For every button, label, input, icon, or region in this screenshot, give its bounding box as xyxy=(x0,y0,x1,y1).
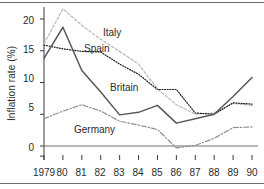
series-lines xyxy=(44,9,252,148)
x-tick-marks xyxy=(44,155,252,160)
y-tick-marks xyxy=(40,19,44,156)
plot-area xyxy=(0,0,264,189)
series-line-italy xyxy=(44,9,252,114)
series-line-britain xyxy=(44,27,252,123)
series-line-germany xyxy=(44,105,252,148)
axes xyxy=(40,7,258,160)
chart-figure: Inflation rate (%) 20 15 10 5 0 1979 80 … xyxy=(0,0,264,189)
